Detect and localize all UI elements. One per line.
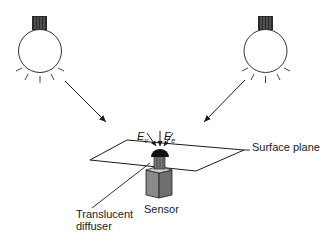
diffuser-label-line1: Translucent bbox=[76, 208, 133, 220]
sensor-box bbox=[146, 166, 172, 198]
lamp-left-icon bbox=[16, 16, 64, 83]
diffuser-dome bbox=[151, 149, 169, 169]
light-ray-right-arrow bbox=[204, 80, 245, 122]
light-ray-left-arrow bbox=[65, 81, 106, 122]
ev-arrow bbox=[147, 133, 156, 146]
sensor-label: Sensor bbox=[144, 203, 179, 215]
lamp-right-icon bbox=[242, 16, 290, 83]
ee-symbol: Ee bbox=[164, 130, 175, 144]
diffuser-label-line2: diffuser bbox=[76, 220, 112, 232]
ev-symbol: Ev bbox=[137, 130, 148, 144]
diagram-canvas bbox=[0, 0, 332, 236]
diffuser-leader-line bbox=[92, 163, 150, 208]
surface-plane-label: Surface plane bbox=[252, 141, 320, 153]
